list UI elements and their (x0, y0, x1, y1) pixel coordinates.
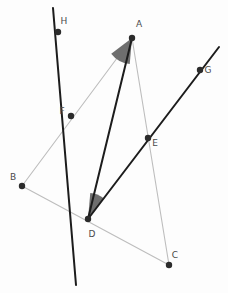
point-label-f: F (59, 106, 64, 116)
point-c[interactable] (166, 262, 172, 268)
point-label-d: D (89, 229, 96, 239)
point-label-b: B (10, 172, 16, 182)
point-labels-layer: ABCDEFGH (10, 16, 212, 260)
point-label-h: H (61, 16, 68, 26)
point-label-g: G (205, 65, 212, 75)
point-h[interactable] (55, 29, 61, 35)
point-label-c: C (172, 250, 178, 260)
geometry-figure: ABCDEFGH (0, 0, 228, 293)
light-segments-layer (22, 38, 169, 265)
point-g[interactable] (197, 67, 203, 73)
points-layer (19, 29, 203, 268)
point-e[interactable] (145, 135, 151, 141)
dark-lines-layer (53, 8, 219, 285)
point-d[interactable] (85, 216, 91, 222)
point-f[interactable] (68, 113, 74, 119)
point-a[interactable] (129, 35, 135, 41)
point-b[interactable] (19, 183, 25, 189)
point-label-e: E (152, 138, 158, 148)
segment-b-a (22, 38, 132, 186)
segment-a-c (132, 38, 169, 265)
point-label-a: A (136, 19, 143, 29)
line-h-d-extended (53, 8, 76, 285)
segment-d-a (88, 38, 132, 219)
diagram-canvas: ABCDEFGH (0, 0, 228, 293)
